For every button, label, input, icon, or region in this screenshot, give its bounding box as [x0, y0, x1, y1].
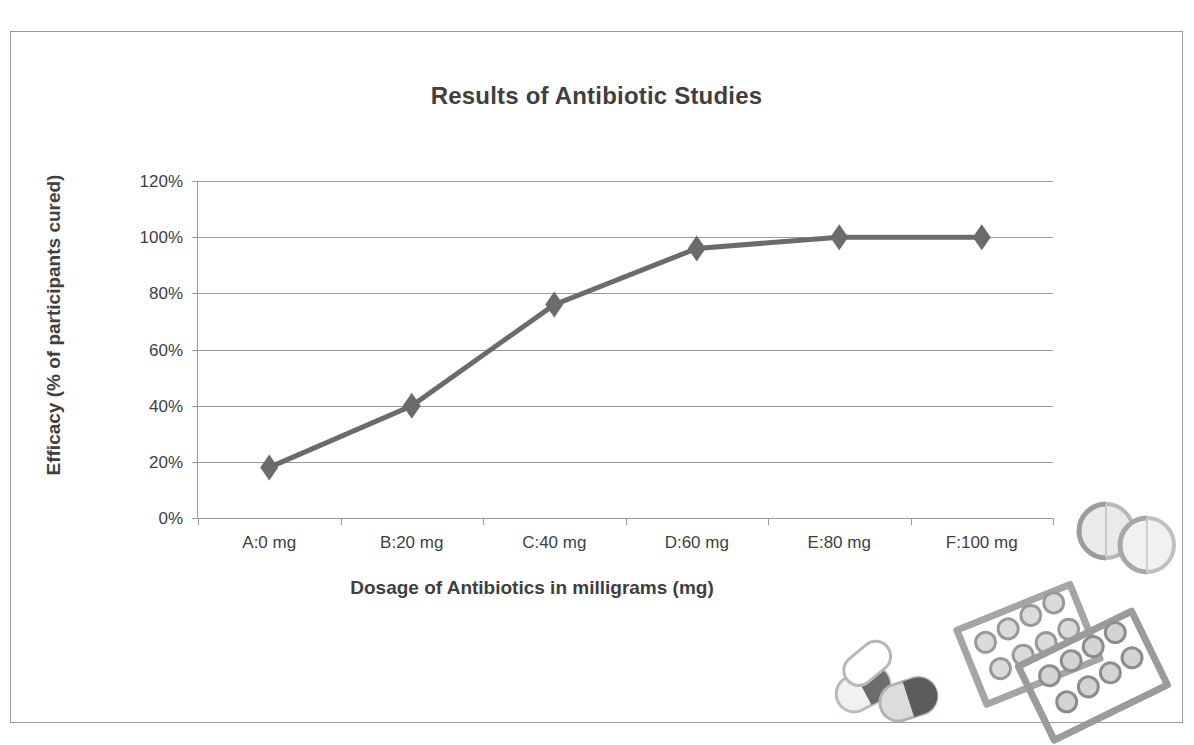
- chart-title: Results of Antibiotic Studies: [11, 82, 1182, 110]
- x-axis-category-label: D:60 mg: [626, 533, 769, 553]
- x-axis-tick: [483, 518, 484, 525]
- pills-clipart: [816, 487, 1194, 745]
- plot-area: A:0 mgB:20 mgC:40 mgD:60 mgE:80 mgF:100 …: [198, 181, 1053, 518]
- y-axis-tick-label: 20%: [113, 454, 183, 471]
- capsule-icon: [875, 673, 942, 726]
- capsule-icon: [838, 635, 897, 691]
- x-axis-tick: [341, 518, 342, 525]
- series-efficacy: [198, 181, 1053, 519]
- data-point-marker: [260, 454, 278, 480]
- blister-pack-icon: [1018, 611, 1167, 740]
- series-markers: [260, 224, 991, 480]
- chart-frame: Results of Antibiotic Studies Efficacy (…: [10, 31, 1183, 723]
- data-point-marker: [403, 393, 421, 419]
- y-axis-tick-label: 40%: [113, 398, 183, 415]
- y-axis-tick-label: 60%: [113, 342, 183, 359]
- data-point-marker: [688, 235, 706, 261]
- y-axis-tick-label: 80%: [113, 285, 183, 302]
- x-axis-category-label: B:20 mg: [341, 533, 484, 553]
- series-line: [269, 237, 982, 467]
- x-axis-tick: [198, 518, 199, 525]
- x-axis-category-label: E:80 mg: [768, 533, 911, 553]
- data-point-marker: [973, 224, 991, 250]
- chart-page: Results of Antibiotic Studies Efficacy (…: [0, 0, 1194, 745]
- x-axis-tick: [911, 518, 912, 525]
- x-axis-tick: [1053, 518, 1054, 525]
- x-axis-category-label: C:40 mg: [483, 533, 626, 553]
- data-point-marker: [830, 224, 848, 250]
- y-axis-tick-label: 0%: [113, 510, 183, 527]
- x-axis-tick: [768, 518, 769, 525]
- capsule-icon: [830, 660, 896, 718]
- data-point-marker: [545, 292, 563, 318]
- round-tablet-icon: [1120, 518, 1174, 572]
- blister-pack-icon: [957, 584, 1100, 704]
- x-axis-title: Dosage of Antibiotics in milligrams (mg): [11, 577, 1053, 599]
- y-axis-tick-label: 100%: [113, 229, 183, 246]
- y-axis-title: Efficacy (% of participants cured): [43, 160, 65, 490]
- y-axis-tick-label: 120%: [113, 173, 183, 190]
- round-tablet-icon: [1079, 504, 1133, 558]
- x-axis-category-label: F:100 mg: [911, 533, 1054, 553]
- x-axis-category-label: A:0 mg: [198, 533, 341, 553]
- x-axis-tick: [626, 518, 627, 525]
